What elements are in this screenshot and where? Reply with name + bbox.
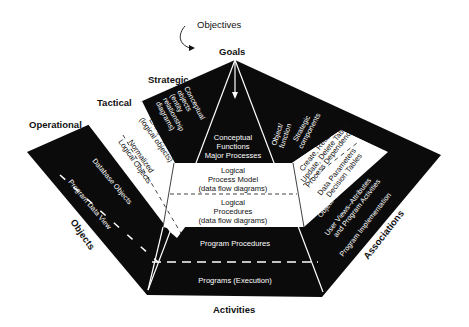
svg-text:Conceptual: Conceptual [214, 133, 253, 142]
curved-arrow-icon [180, 26, 190, 48]
operational-label: Operational [29, 119, 82, 130]
pyramid-diagram: Objectives Goals Strategic Tactical Oper… [0, 0, 469, 327]
strategic-label: Strategic [148, 74, 189, 85]
svg-text:Major Processes: Major Processes [205, 151, 262, 160]
activities-label: Activities [213, 304, 255, 315]
svg-text:Logical: Logical [221, 198, 245, 207]
svg-text:Functions: Functions [217, 142, 250, 151]
tactical-label: Tactical [97, 97, 132, 108]
svg-text:(data flow diagrams): (data flow diagrams) [199, 184, 268, 193]
program-procedures-label: Program Procedures [200, 239, 270, 248]
goals-label: Goals [219, 46, 245, 57]
svg-text:Procedures: Procedures [214, 207, 253, 216]
svg-text:Process Model: Process Model [208, 175, 259, 184]
objectives-label: Objectives [197, 19, 242, 30]
svg-text:Logical: Logical [221, 166, 245, 175]
svg-text:(data flow diagrams): (data flow diagrams) [199, 216, 268, 225]
programs-execution-label: Programs (Execution) [198, 276, 272, 285]
